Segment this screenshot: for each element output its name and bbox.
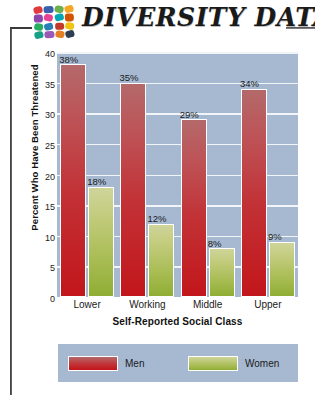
y-axis-tick-label: 30	[45, 111, 55, 120]
bar-slot: 38%	[60, 52, 86, 297]
y-axis-tick-label: 15	[45, 203, 55, 212]
y-axis-tick-label: 35	[45, 80, 55, 89]
x-axis-tick-upper: Upper	[238, 299, 298, 310]
y-axis-tick-label: 20	[45, 172, 55, 181]
bar-value-label: 8%	[208, 239, 222, 249]
x-axis-tick-working: Working	[117, 299, 177, 310]
bar-chart: Percent Who Have Been Threatened 0510152…	[0, 50, 315, 310]
legend-swatch-women	[188, 356, 238, 371]
bar-slot: 34%	[241, 52, 267, 297]
logo-cell	[34, 15, 43, 23]
bar-slot: 29%	[181, 52, 207, 297]
logo-cell	[44, 6, 53, 14]
bar-value-label: 18%	[87, 177, 106, 187]
chart-legend: MenWomen	[58, 344, 298, 382]
bar-slot: 35%	[120, 52, 146, 297]
bar-value-label: 35%	[119, 73, 138, 83]
bar-slot: 9%	[269, 52, 295, 297]
y-axis-tick-label: 25	[45, 141, 55, 150]
x-axis-tick-lower: Lower	[57, 299, 117, 310]
bar-men-working[interactable]: 35%	[120, 83, 146, 297]
logo-cell	[33, 6, 44, 15]
bar-group: 29%8%	[178, 52, 238, 297]
bar-value-label: 12%	[147, 214, 166, 224]
x-axis-label: Self-Reported Social Class	[57, 316, 298, 327]
legend-item-men[interactable]: Men	[58, 356, 178, 371]
bar-slot: 12%	[148, 52, 174, 297]
legend-label: Men	[125, 358, 144, 369]
bar-men-lower[interactable]: 38%	[60, 64, 86, 297]
y-axis-tick-label: 0	[50, 295, 55, 304]
plot-area: 38%18%35%12%29%8%34%9%	[57, 52, 298, 297]
bar-group: 35%12%	[117, 52, 177, 297]
page-title: DIVERSITY DATA	[82, 2, 315, 33]
logo-cell	[54, 30, 64, 39]
logo-cell	[44, 14, 54, 23]
bar-women-lower[interactable]: 18%	[88, 187, 114, 297]
legend-swatch-men	[68, 356, 118, 371]
x-axis-tick-middle: Middle	[178, 299, 238, 310]
legend-item-women[interactable]: Women	[178, 356, 298, 371]
bar-group: 38%18%	[57, 52, 117, 297]
logo-cell	[54, 13, 65, 22]
bar-groups: 38%18%35%12%29%8%34%9%	[57, 52, 298, 297]
bar-value-label: 9%	[268, 232, 282, 242]
logo-cell	[45, 31, 54, 39]
bar-men-middle[interactable]: 29%	[181, 119, 207, 297]
bar-women-working[interactable]: 12%	[148, 224, 174, 298]
bar-value-label: 29%	[180, 110, 199, 120]
bar-women-upper[interactable]: 9%	[269, 242, 295, 297]
logo-cell	[55, 22, 64, 30]
y-axis-tick-label: 10	[45, 233, 55, 242]
bar-value-label: 34%	[240, 79, 259, 89]
y-axis-tick-label: 5	[50, 264, 55, 273]
logo-cell	[54, 5, 64, 14]
bar-slot: 8%	[209, 52, 235, 297]
y-axis-tick-label: 40	[45, 50, 55, 59]
x-axis-ticks: LowerWorkingMiddleUpper	[57, 299, 298, 310]
bar-slot: 18%	[88, 52, 114, 297]
bar-men-upper[interactable]: 34%	[241, 89, 267, 297]
bar-women-middle[interactable]: 8%	[209, 248, 235, 297]
logo-cell	[44, 22, 55, 31]
logo-cell	[64, 21, 74, 30]
legend-label: Women	[245, 358, 279, 369]
logo-cell	[64, 4, 75, 13]
logo-cell	[64, 14, 73, 22]
bar-group: 34%9%	[238, 52, 298, 297]
y-axis-ticks: 0510152025303540	[34, 52, 55, 298]
header: DIVERSITY DATA	[0, 0, 315, 46]
bar-value-label: 38%	[59, 55, 78, 65]
logo-cell	[64, 29, 75, 38]
